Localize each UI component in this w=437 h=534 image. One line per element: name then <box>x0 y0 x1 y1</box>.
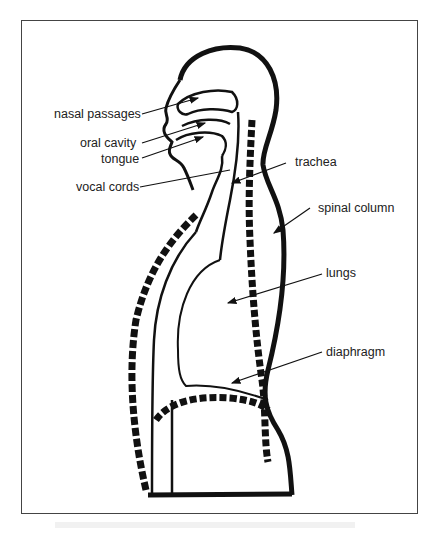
label-spinal-column: spinal column <box>318 201 394 215</box>
leader-trachea <box>232 163 286 183</box>
chest-front <box>152 232 196 495</box>
trachea-front <box>196 156 222 232</box>
trachea-back <box>220 112 239 260</box>
oral-cavity-outline <box>182 120 230 126</box>
label-lungs: lungs <box>326 266 356 280</box>
ribcage-front <box>132 215 196 490</box>
body-outline-bottom <box>148 494 292 495</box>
label-nasal-passages: nasal passages <box>54 107 141 121</box>
label-vocal-cords: vocal cords <box>76 180 139 194</box>
nasal-cavity <box>178 91 238 115</box>
leader-diaphragm <box>232 352 322 383</box>
faint-caption-remnant <box>55 522 355 528</box>
respiratory-diagram <box>0 0 437 534</box>
leader-lungs <box>228 274 322 303</box>
body-outline-back <box>180 47 292 495</box>
label-oral-cavity: oral cavity <box>80 136 136 150</box>
label-tongue: tongue <box>101 152 139 166</box>
label-trachea: trachea <box>295 155 337 169</box>
label-diaphragm: diaphragm <box>326 345 385 359</box>
